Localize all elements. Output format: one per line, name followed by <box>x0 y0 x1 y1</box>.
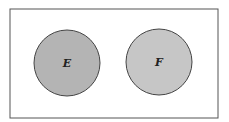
set-e: E <box>34 30 100 96</box>
set-f-label: F <box>154 56 164 69</box>
set-f: F <box>126 29 192 95</box>
set-e-label: E <box>62 57 72 70</box>
venn-diagram: E F <box>0 0 229 122</box>
